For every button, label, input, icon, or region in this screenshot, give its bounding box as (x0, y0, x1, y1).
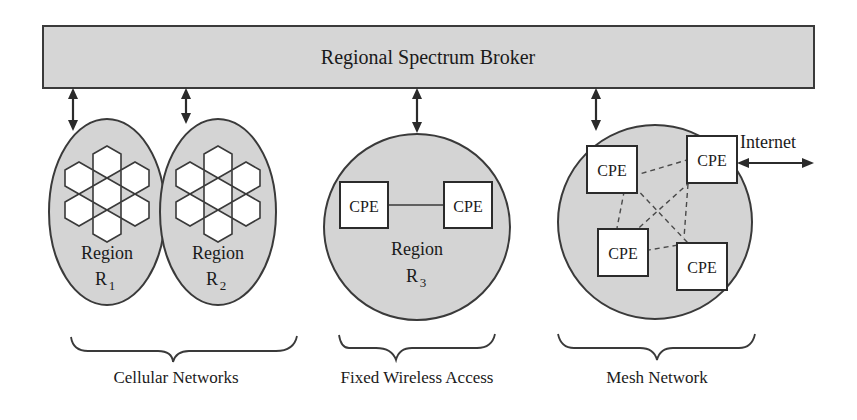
cpe-node-label: CPE (349, 198, 378, 215)
hex-cell (121, 162, 149, 194)
internet-label: Internet (740, 132, 796, 152)
hex-cell (93, 210, 121, 242)
diagram-canvas: Regional Spectrum Broker (0, 0, 857, 420)
cpe-node-label: CPE (687, 259, 716, 276)
hex-cell (232, 162, 260, 194)
cpe-node-mesh-bottom-left[interactable]: CPE (598, 229, 648, 276)
internet-link[interactable]: Internet (737, 132, 814, 168)
broker-link-arrow-2 (181, 88, 191, 124)
group-label-fixed-wireless: Fixed Wireless Access (341, 368, 494, 387)
region-r2-id: R (206, 269, 218, 289)
broker-banner-label: Regional Spectrum Broker (321, 46, 536, 69)
region-r1-label: Region (81, 243, 133, 263)
cpe-node-mesh-bottom-right[interactable]: CPE (677, 243, 727, 290)
cpe-node-label: CPE (697, 152, 726, 169)
group-label-cellular: Cellular Networks (113, 368, 238, 387)
hex-cell (65, 194, 93, 226)
diagram-svg: Regional Spectrum Broker (0, 0, 857, 420)
region-r3-label: Region (391, 239, 443, 259)
region-r3-index: 3 (420, 275, 427, 290)
internet-arrow-head-right (802, 158, 814, 168)
region-r3-id: R (406, 266, 418, 286)
cpe-node-fw-right[interactable]: CPE (444, 182, 492, 228)
regional-spectrum-broker-banner[interactable]: Regional Spectrum Broker (43, 26, 814, 88)
internet-arrow-head-left (737, 158, 749, 168)
hex-cell (93, 146, 121, 178)
region-r1-index: 1 (109, 278, 116, 293)
hex-cell (65, 162, 93, 194)
region-r2-label: Region (192, 243, 244, 263)
hex-cell (204, 178, 232, 210)
brace-path (71, 336, 297, 362)
cpe-node-label: CPE (597, 162, 626, 179)
broker-link-arrow-3 (412, 88, 422, 133)
cpe-node-fw-left[interactable]: CPE (340, 182, 388, 228)
hex-cell (204, 146, 232, 178)
cpe-node-label: CPE (608, 245, 637, 262)
group-brace-fixed-wireless (339, 334, 495, 360)
region-r1[interactable]: Region R 1 (49, 119, 165, 305)
group-label-mesh: Mesh Network (606, 368, 708, 387)
cpe-node-mesh-top-right[interactable]: CPE (687, 136, 737, 183)
broker-connector-group (68, 88, 601, 133)
region-r1-id: R (95, 269, 107, 289)
hex-cell (176, 162, 204, 194)
brace-path (339, 334, 495, 360)
group-brace-cellular (71, 336, 297, 362)
hex-cell (204, 210, 232, 242)
mesh-network-region[interactable]: CPE CPE CPE CPE (558, 125, 752, 319)
cpe-node-label: CPE (453, 198, 482, 215)
hex-cell (232, 194, 260, 226)
cpe-node-mesh-top-left[interactable]: CPE (587, 146, 637, 193)
region-r3[interactable]: CPE CPE Region R 3 (324, 134, 510, 320)
region-r2-index: 2 (220, 278, 227, 293)
hex-cell (121, 194, 149, 226)
brace-path (558, 334, 755, 360)
hex-cell (176, 194, 204, 226)
region-r2[interactable]: Region R 2 (160, 119, 276, 305)
group-brace-mesh (558, 334, 755, 360)
broker-link-arrow-4 (591, 88, 601, 131)
hex-cell (93, 178, 121, 210)
broker-link-arrow-1 (68, 88, 78, 131)
